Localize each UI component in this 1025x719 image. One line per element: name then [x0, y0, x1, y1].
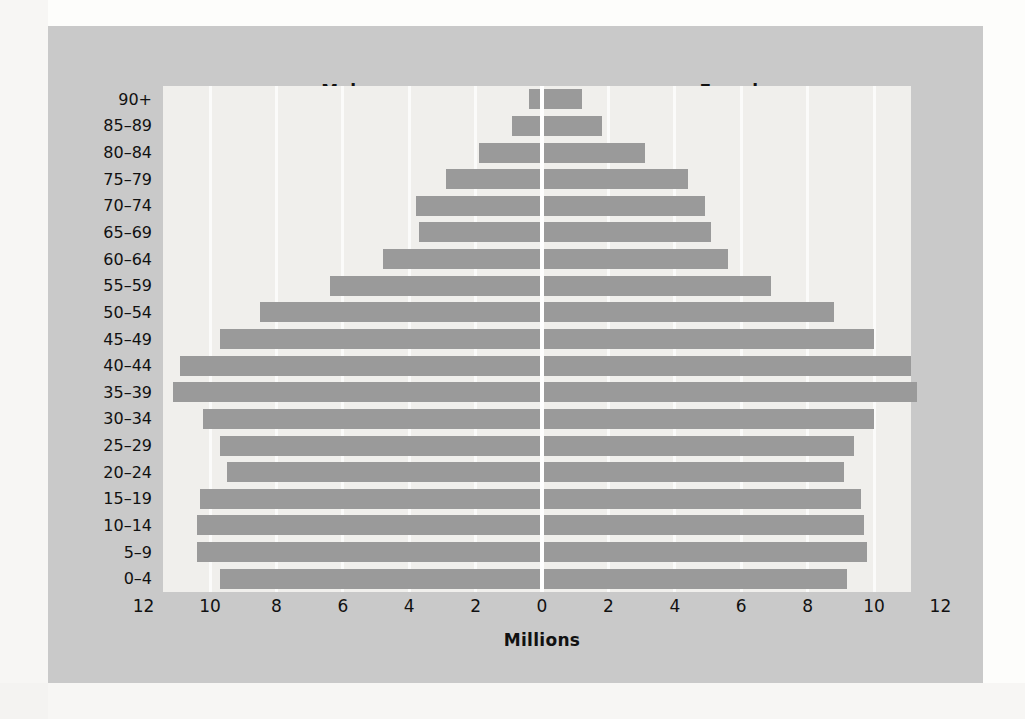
- female-bar: [542, 569, 847, 589]
- male-bar: [180, 356, 542, 376]
- x-axis-tick-label: 4: [669, 596, 680, 616]
- pyramid-row: [163, 196, 911, 216]
- female-bar: [542, 196, 705, 216]
- pyramid-row: [163, 329, 911, 349]
- female-bar: [542, 329, 874, 349]
- male-bar: [173, 382, 542, 402]
- x-axis-tick-label: 6: [736, 596, 747, 616]
- x-axis-tick-label: 8: [802, 596, 813, 616]
- pyramid-row: [163, 409, 911, 429]
- y-axis-tick-label: 55–59: [103, 276, 152, 295]
- x-axis-tick-label: 6: [337, 596, 348, 616]
- figure-panel: Males Females 90+85–8980–8475–7970–7465–…: [48, 26, 983, 683]
- y-axis-tick-label: 40–44: [103, 356, 152, 375]
- female-bar: [542, 436, 854, 456]
- female-bar: [542, 116, 602, 136]
- female-bar: [542, 462, 844, 482]
- female-bar: [542, 89, 582, 109]
- pyramid-row: [163, 515, 911, 535]
- male-bar: [416, 196, 542, 216]
- pyramid-row: [163, 302, 911, 322]
- male-bar: [479, 143, 542, 163]
- female-bar: [542, 382, 917, 402]
- pyramid-row: [163, 143, 911, 163]
- male-bar: [220, 329, 542, 349]
- pyramid-row: [163, 436, 911, 456]
- male-bar: [260, 302, 542, 322]
- x-axis-tick-label: 2: [603, 596, 614, 616]
- y-axis-tick-label: 85–89: [103, 116, 152, 135]
- page-root: Males Females 90+85–8980–8475–7970–7465–…: [0, 0, 1025, 719]
- male-bar: [227, 462, 542, 482]
- male-bar: [197, 542, 542, 562]
- female-bar: [542, 276, 771, 296]
- male-bar: [220, 569, 542, 589]
- y-axis-tick-label: 20–24: [103, 463, 152, 482]
- male-bar: [200, 489, 542, 509]
- plot-area: [163, 86, 911, 592]
- paper-texture: [0, 0, 48, 719]
- y-axis-tick-label: 30–34: [103, 409, 152, 428]
- y-axis-tick-label: 10–14: [103, 516, 152, 535]
- y-axis-tick-label: 65–69: [103, 223, 152, 242]
- female-bar: [542, 302, 834, 322]
- pyramid-row: [163, 89, 911, 109]
- pyramid-row: [163, 222, 911, 242]
- female-bar: [542, 409, 874, 429]
- x-axis-tick-label: 0: [537, 596, 548, 616]
- x-axis-tick-label: 10: [199, 596, 221, 616]
- pyramid-row: [163, 276, 911, 296]
- pyramid-row: [163, 462, 911, 482]
- x-axis-tick-label: 12: [930, 596, 952, 616]
- x-axis-tick-label: 4: [404, 596, 415, 616]
- female-bar: [542, 249, 728, 269]
- male-bar: [383, 249, 542, 269]
- pyramid-row: [163, 169, 911, 189]
- female-bar: [542, 515, 864, 535]
- y-axis-tick-label: 0–4: [124, 569, 152, 588]
- male-bar: [512, 116, 542, 136]
- female-bar: [542, 169, 688, 189]
- male-bar: [197, 515, 542, 535]
- pyramid-row: [163, 249, 911, 269]
- female-bar: [542, 542, 867, 562]
- y-axis-tick-label: 60–64: [103, 250, 152, 269]
- y-axis-tick-label: 35–39: [103, 383, 152, 402]
- y-axis-tick-label: 75–79: [103, 170, 152, 189]
- y-axis-tick-label: 70–74: [103, 196, 152, 215]
- x-axis-tick-label: 10: [863, 596, 885, 616]
- male-bar: [220, 436, 542, 456]
- y-axis-tick-label: 80–84: [103, 143, 152, 162]
- x-axis-tick-label: 8: [271, 596, 282, 616]
- y-axis-tick-label: 5–9: [124, 543, 152, 562]
- x-axis-ticks: 12108642024681012: [163, 596, 911, 622]
- x-axis-tick-label: 12: [133, 596, 155, 616]
- center-axis-line: [540, 86, 544, 592]
- male-bar: [330, 276, 542, 296]
- female-bar: [542, 489, 861, 509]
- pyramid-row: [163, 382, 911, 402]
- paper-texture: [0, 683, 1025, 719]
- female-bar: [542, 222, 711, 242]
- female-bar: [542, 143, 645, 163]
- pyramid-row: [163, 356, 911, 376]
- pyramid-row: [163, 489, 911, 509]
- y-axis-tick-label: 45–49: [103, 330, 152, 349]
- female-bar: [542, 356, 911, 376]
- x-axis-tick-label: 2: [470, 596, 481, 616]
- y-axis-labels: 90+85–8980–8475–7970–7465–6960–6455–5950…: [60, 86, 152, 592]
- y-axis-tick-label: 15–19: [103, 489, 152, 508]
- y-axis-tick-label: 50–54: [103, 303, 152, 322]
- y-axis-tick-label: 25–29: [103, 436, 152, 455]
- x-axis-title: Millions: [504, 630, 581, 650]
- male-bar: [203, 409, 542, 429]
- male-bar: [446, 169, 542, 189]
- pyramid-row: [163, 569, 911, 589]
- y-axis-tick-label: 90+: [118, 90, 152, 109]
- pyramid-row: [163, 542, 911, 562]
- pyramid-row: [163, 116, 911, 136]
- male-bar: [419, 222, 542, 242]
